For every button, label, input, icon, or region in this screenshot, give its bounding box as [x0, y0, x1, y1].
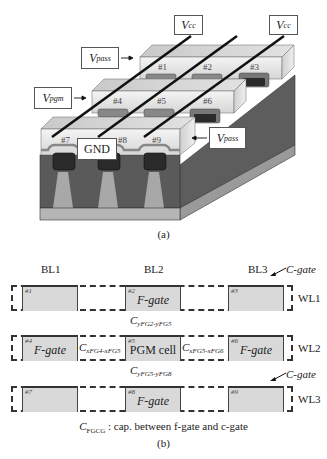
legend-main: C: [79, 420, 86, 432]
vpgm-main: V: [42, 91, 49, 106]
cap-y-fg2-fg5: CyFG2-yFG5: [130, 314, 172, 328]
cap-sub: yFG2-yFG5: [137, 320, 171, 328]
vcc-label-right: Vcc: [269, 15, 298, 35]
cell-text: F-gate: [229, 343, 283, 358]
cell-label-6: #6: [203, 96, 213, 106]
c-gate-label-bottom: C-gate: [286, 368, 316, 380]
cell-8: #8 F-gate: [125, 386, 181, 412]
legend-sub: FGCG: [87, 427, 106, 435]
cell-label-1: #1: [158, 62, 167, 72]
vpass-label-top: Vpass: [81, 47, 119, 69]
c-gate-arrow-bottom-icon: [268, 371, 288, 383]
vcc-sub: cc: [284, 21, 291, 30]
cap-y-fg5-fg8: CyFG5-yFG8: [130, 364, 172, 378]
vpgm-label: Vpgm: [34, 87, 72, 109]
figure-a-caption: (a): [0, 228, 327, 240]
wordline-row-3: #7 #8 F-gate #9: [11, 386, 293, 412]
vcc-sub: cc: [189, 21, 196, 30]
gnd-label: GND: [77, 138, 117, 160]
cell-4: #4 F-gate: [22, 335, 78, 361]
cell-1: #1: [22, 285, 78, 311]
cell-number: #3: [231, 287, 238, 295]
cell-6: #6 F-gate: [228, 335, 284, 361]
wordline-row-2: #4 F-gate #5 PGM cell #6 F-gate CxFG4-xF…: [11, 335, 293, 361]
vpass-sub: pass: [97, 54, 111, 63]
floating-gate-9: [144, 153, 166, 170]
figure-a-3d-nand-array: #1 #2 #3 #4 #5 #6 #7 #8 #9 Vcc Vcc Vpass…: [0, 0, 327, 230]
cap-x-fg5-fg6: CxFG5-xFG6: [182, 341, 224, 355]
base-front: [40, 208, 180, 220]
c-gate-arrow-top-icon: [268, 266, 288, 278]
cell-text: PGM cell: [126, 343, 180, 358]
cell-text: F-gate: [23, 343, 77, 358]
cell-label-7: #7: [61, 135, 71, 145]
vpass-sub: pass: [224, 134, 238, 143]
vcc-main: V: [276, 18, 283, 33]
legend-fgcg: CFGCG : cap. between f-gate and c-gate: [0, 420, 327, 435]
vpass-main: V: [89, 51, 96, 66]
vpass-main: V: [217, 131, 224, 146]
wordline-label-2: WL2: [298, 342, 321, 354]
legend-text: : cap. between f-gate and c-gate: [105, 420, 248, 432]
cell-5-pgm: #5 PGM cell: [125, 335, 181, 361]
figure-b-caption: (b): [0, 437, 327, 449]
cell-2: #2 F-gate: [125, 285, 181, 311]
cell-label-4: #4: [113, 96, 123, 106]
vpgm-sub: pgm: [50, 94, 64, 103]
cell-label-3: #3: [250, 62, 260, 72]
cap-x-fg4-fg5: CxFG4-xFG5: [79, 341, 121, 355]
cell-label-2: #2: [203, 62, 212, 72]
bitline-label-1: BL1: [41, 263, 61, 275]
vcc-main: V: [181, 18, 188, 33]
cell-number: #7: [25, 388, 32, 396]
bitline-label-2: BL2: [144, 263, 164, 275]
cell-text: F-gate: [126, 394, 180, 409]
c-gate-label-top: C-gate: [286, 263, 316, 275]
cell-text: F-gate: [126, 293, 180, 308]
cell-9: #9: [228, 386, 284, 412]
cell-number: #1: [25, 287, 32, 295]
bitline-label-3: BL3: [248, 263, 268, 275]
cell-label-5: #5: [157, 96, 167, 106]
cap-sub: xFG5-xFG6: [189, 347, 223, 355]
cell-label-9: #9: [152, 135, 162, 145]
floating-gate-7: [53, 153, 75, 170]
cell-number: #9: [231, 388, 238, 396]
vpass-label-bottom: Vpass: [209, 127, 246, 149]
cell-3: #3: [228, 285, 284, 311]
wordline-label-1: WL1: [298, 292, 321, 304]
cell-7: #7: [22, 386, 78, 412]
vcc-label-left: Vcc: [174, 15, 203, 35]
cell-label-8: #8: [118, 135, 128, 145]
cap-sub: xFG4-xFG5: [86, 347, 120, 355]
wordline-row-1: #1 #2 F-gate #3: [11, 285, 293, 311]
cap-sub: yFG5-yFG8: [137, 370, 171, 378]
wordline-label-3: WL3: [298, 393, 321, 405]
